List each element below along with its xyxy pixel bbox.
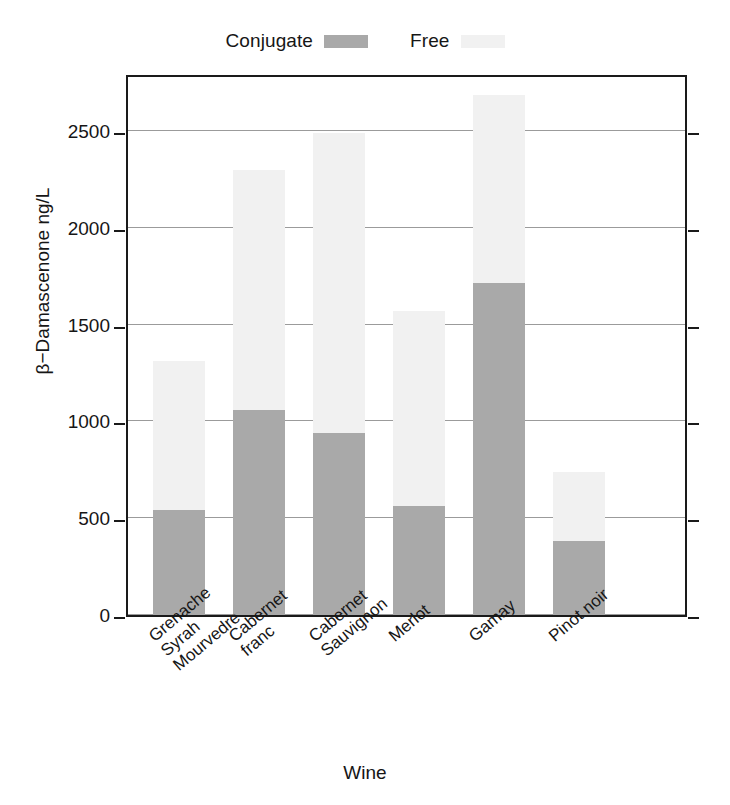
legend-swatch-conjugate [324,35,368,48]
x-axis-tick-labels: GrenacheSyrahMourvedreCabernetfrancCaber… [0,617,730,757]
bar-segment-free[interactable] [473,95,525,283]
legend-swatch-free [461,35,505,48]
bar-segment-conjugate[interactable] [473,283,525,615]
x-axis-title: Wine [0,762,730,784]
bar-group[interactable] [313,133,365,615]
y-tick-mark-right [688,520,699,522]
y-tick-mark-left [114,327,125,329]
gridline [128,130,685,131]
bar-segment-conjugate[interactable] [233,410,285,615]
y-tick-mark-left [114,423,125,425]
bar-segment-free[interactable] [153,361,205,510]
bar-group[interactable] [473,95,525,615]
bar-segment-free[interactable] [553,472,605,542]
bar-group[interactable] [233,170,285,615]
y-tick-mark-left [114,230,125,232]
y-tick-label: 2500 [18,121,110,143]
gridline [128,227,685,228]
bar-group[interactable] [393,311,445,615]
y-tick-mark-right [688,133,699,135]
legend-entry-free: Free [410,30,504,52]
y-tick-label: 2000 [18,218,110,240]
bar-group[interactable] [153,361,205,615]
y-tick-mark-right [688,423,699,425]
y-tick-mark-left [114,520,125,522]
legend-label-free: Free [410,30,449,52]
y-tick-label: 500 [18,508,110,530]
bar-segment-free[interactable] [313,133,365,433]
legend-label-conjugate: Conjugate [226,30,314,52]
y-tick-mark-right [688,230,699,232]
y-tick-label: 1500 [18,315,110,337]
y-tick-label: 1000 [18,411,110,433]
legend-entry-conjugate: Conjugate [226,30,369,52]
y-tick-mark-left [114,133,125,135]
bar-segment-conjugate[interactable] [393,506,445,615]
bar-segment-free[interactable] [393,311,445,506]
plot-area [126,75,687,617]
y-tick-mark-right [688,327,699,329]
bar-segment-free[interactable] [233,170,285,410]
